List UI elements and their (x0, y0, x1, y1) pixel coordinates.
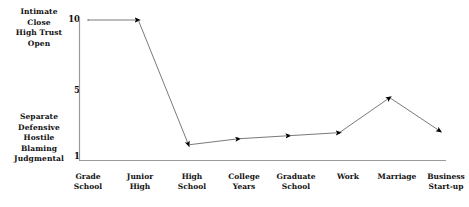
x-tick-label-graduate-school: Graduate School (270, 172, 322, 193)
x-tick-label-line-2: School (270, 182, 322, 192)
x-tick-label-line-1: Work (322, 172, 374, 182)
x-tick-label-junior-high: Junior High (114, 172, 166, 193)
x-tick-label-line-1: Graduate (270, 172, 322, 182)
data-point-marker (188, 144, 189, 145)
data-series-line (88, 20, 440, 145)
x-tick-label-marriage: Marriage (371, 172, 423, 182)
data-point-marker (439, 131, 440, 132)
data-point-marker (87, 19, 88, 20)
x-tick-label-business-startup: Business Start-up (420, 172, 469, 193)
x-tick-label-line-1: High (166, 172, 218, 182)
data-segment (189, 139, 239, 145)
x-tick-label-high-school: High School (166, 172, 218, 193)
x-tick-label-line-1: Business (420, 172, 469, 182)
x-tick-label-line-2: School (166, 182, 218, 192)
data-segment (289, 133, 339, 136)
x-tick-label-line-2: Years (218, 182, 270, 192)
x-tick-label-line-2: High (114, 182, 166, 192)
x-tick-label-work: Work (322, 172, 374, 182)
data-point-marker (238, 138, 239, 139)
x-tick-label-line-1: Grade (62, 172, 114, 182)
data-point-marker (339, 132, 340, 133)
x-tick-label-line-1: College (218, 172, 270, 182)
x-tick-label-line-1: Marriage (371, 172, 423, 182)
data-segment (339, 98, 389, 133)
data-segment (239, 136, 289, 139)
x-tick-label-line-1: Junior (114, 172, 166, 182)
data-segment (390, 98, 440, 131)
x-tick-label-line-2: School (62, 182, 114, 192)
data-point-marker (289, 135, 290, 136)
data-point-marker (138, 19, 139, 20)
x-tick-label-college-years: College Years (218, 172, 270, 193)
x-tick-label-line-2: Start-up (420, 182, 469, 192)
x-tick-label-grade-school: Grade School (62, 172, 114, 193)
data-point-marker (389, 97, 390, 98)
data-segment (138, 20, 188, 144)
data-point-markers (87, 19, 440, 145)
